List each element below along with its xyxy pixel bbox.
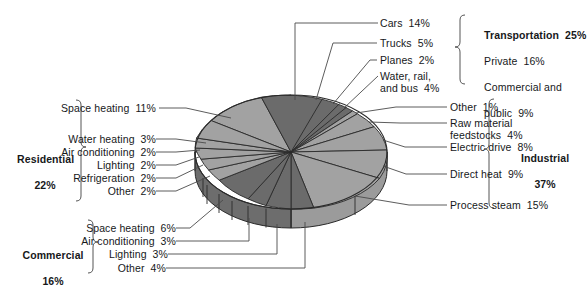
group-transportation: Transportation 25% Private 16% Commercia… [472,16,584,133]
leader-ind-raw [369,122,447,123]
leader-trucks [316,43,377,100]
group-industrial-total: 37% [534,178,555,190]
group-industrial-title: Industrial [521,152,569,164]
leader-ind-electric [383,140,447,147]
group-commercial: Commercial 16% [8,236,86,292]
label-water-rail-bus-line1: Water, rail, [380,70,470,82]
label-com-space-heating: Space heating 6% [76,222,176,234]
group-residential-total: 22% [34,179,55,191]
leader-ind-direct-heat [383,166,447,174]
group-commercial-total: 16% [42,275,63,287]
chart-figure: Cars 14% Trucks 5% Planes 2% Water, rail… [0,0,587,292]
leader-com-air-cond [176,218,249,241]
pie-slices [195,95,387,209]
group-transportation-sub1: Private 16% [484,55,545,67]
leader-com-lighting [168,224,277,254]
label-trucks: Trucks 5% [380,37,470,49]
leader-water-rail-bus [344,76,378,108]
group-commercial-title: Commercial [22,249,83,261]
label-cars: Cars 14% [380,17,470,29]
leader-res-air-cond [156,150,200,152]
leader-com-other [166,222,305,268]
group-industrial: Industrial 37% [500,139,578,204]
group-residential: Residential 22% [5,140,73,205]
leader-ind-other [356,107,447,113]
leader-res-lighting [156,157,199,165]
group-transportation-sub2: Commercial and [484,81,562,93]
label-planes: Planes 2% [380,54,470,66]
label-ind-raw-line1: Raw material [450,117,560,129]
group-transportation-title: Transportation 25% [484,29,586,41]
group-residential-title: Residential [17,153,74,165]
label-res-space-heating: Space heating 11% [56,102,156,114]
label-ind-other: Other 1% [450,101,560,113]
label-water-rail-bus-line2: and bus 4% [380,82,475,94]
leader-cars [295,23,378,100]
